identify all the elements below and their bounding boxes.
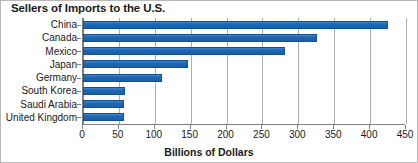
y-axis-label-china: China <box>1 18 77 31</box>
bar-canada <box>83 34 317 42</box>
x-axis-label-350: 350 <box>325 129 342 140</box>
x-axis-line <box>82 124 405 125</box>
y-axis-label-mexico: Mexico <box>1 45 77 58</box>
bar-germany <box>83 74 162 82</box>
y-axis-tick <box>77 78 81 79</box>
bar-japan <box>83 60 188 68</box>
x-axis-label-200: 200 <box>217 129 234 140</box>
bar-row <box>83 98 405 111</box>
y-axis-tick <box>77 51 81 52</box>
y-axis-label-south-korea: South Korea <box>1 84 77 97</box>
x-axis-label-300: 300 <box>289 129 306 140</box>
bar-row <box>83 71 405 84</box>
bar-south-korea <box>83 87 125 95</box>
y-axis-label-saudi-arabia: Saudi Arabia <box>1 98 77 111</box>
bar-rows <box>83 18 405 124</box>
y-axis-tick <box>77 64 81 65</box>
y-axis-label-germany: Germany <box>1 71 77 84</box>
y-axis-label-united-kingdom: United Kingdom <box>1 111 77 124</box>
x-axis-label-250: 250 <box>253 129 270 140</box>
x-axis-label-450: 450 <box>397 129 414 140</box>
y-axis-tick <box>77 38 81 39</box>
x-axis-label-150: 150 <box>181 129 198 140</box>
x-axis-label-0: 0 <box>79 129 85 140</box>
y-axis-tick <box>77 25 81 26</box>
bar-united-kingdom <box>83 113 124 121</box>
y-axis-tick <box>77 104 81 105</box>
bar-row <box>83 58 405 71</box>
gridline-450 <box>406 18 407 124</box>
x-axis-title: Billions of Dollars <box>1 146 417 158</box>
y-axis-tick <box>77 91 81 92</box>
chart-title: Sellers of Imports to the U.S. <box>11 2 165 14</box>
bar-row <box>83 31 405 44</box>
bar-mexico <box>83 47 285 55</box>
bar-china <box>83 21 388 29</box>
bar-saudi-arabia <box>83 100 124 108</box>
y-axis-label-japan: Japan <box>1 58 77 71</box>
x-axis-label-100: 100 <box>145 129 162 140</box>
y-axis-label-canada: Canada <box>1 31 77 44</box>
bar-row <box>83 111 405 124</box>
y-axis-tick <box>77 117 81 118</box>
bar-chart: Sellers of Imports to the U.S. ChinaCana… <box>0 0 418 163</box>
x-axis-label-50: 50 <box>112 129 123 140</box>
plot-area <box>82 18 405 124</box>
x-axis-label-400: 400 <box>361 129 378 140</box>
y-axis-category-labels: ChinaCanadaMexicoJapanGermanySouth Korea… <box>1 18 77 124</box>
bar-row <box>83 84 405 97</box>
bar-row <box>83 18 405 31</box>
bar-row <box>83 45 405 58</box>
